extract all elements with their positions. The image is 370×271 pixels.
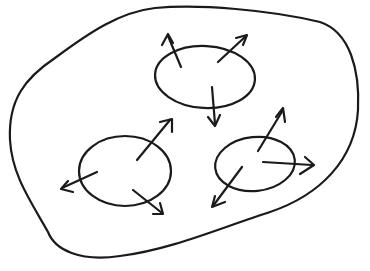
diagram-canvas [0, 0, 370, 271]
arrow-icon [263, 157, 314, 174]
region-bottom-right [212, 108, 314, 207]
region-top [153, 34, 256, 126]
region-bottom-left [61, 119, 172, 214]
container-outline [10, 7, 358, 258]
arrow-icon [258, 108, 285, 151]
